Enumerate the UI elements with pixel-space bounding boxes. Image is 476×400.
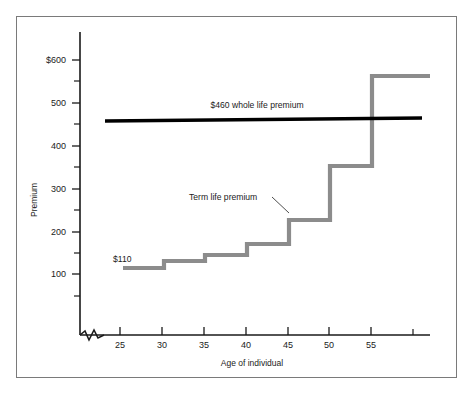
y-tick-label-200: 200 (51, 227, 66, 237)
x-tick-label-40: 40 (241, 340, 251, 350)
term-life-premium-annotation: Term life premium (189, 192, 257, 202)
y-axis-tick-labels: $600 500 400 300 200 100 (46, 55, 66, 279)
y-axis-title: Premium (29, 183, 39, 217)
y-tick-label-400: 400 (51, 141, 66, 151)
x-axis-title: Age of individual (221, 358, 283, 368)
x-tick-label-45: 45 (283, 340, 293, 350)
x-tick-label-35: 35 (199, 340, 209, 350)
start-value-annotation: $110 (113, 254, 132, 264)
term-life-leader-line (272, 197, 289, 213)
x-tick-label-30: 30 (157, 340, 167, 350)
chart-figure: $600 500 400 300 200 100 Premium 25 30 3… (0, 0, 476, 400)
y-tick-label-300: 300 (51, 184, 66, 194)
y-tick-label-100: 100 (51, 269, 66, 279)
x-axis-tick-labels: 25 30 35 40 45 50 55 (115, 340, 376, 350)
y-axis-ticks (72, 60, 80, 296)
x-tick-label-50: 50 (324, 340, 334, 350)
x-axis-ticks (120, 327, 413, 335)
y-tick-label-600: $600 (46, 55, 66, 65)
premium-comparison-chart: $600 500 400 300 200 100 Premium 25 30 3… (0, 0, 476, 400)
whole-life-premium-line (105, 118, 422, 121)
whole-life-premium-annotation: $460 whole life premium (210, 100, 303, 110)
x-tick-label-25: 25 (115, 340, 125, 350)
x-tick-label-55: 55 (366, 340, 376, 350)
axes (80, 32, 430, 340)
y-tick-label-500: 500 (51, 98, 66, 108)
